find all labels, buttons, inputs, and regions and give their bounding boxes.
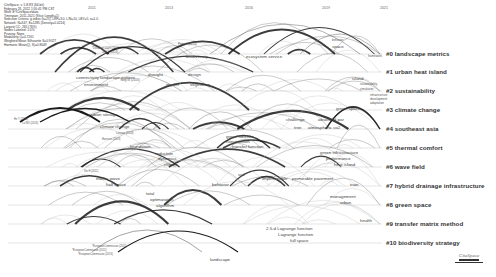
node-label[interactable]: He Y (2016): [14, 118, 28, 121]
node-label[interactable]: performance: [326, 156, 351, 161]
node-label[interactable]: dynamics: [158, 156, 177, 161]
node-label[interactable]: foundation: [130, 144, 151, 149]
node-label[interactable]: permeable pavement: [292, 176, 333, 181]
node-label[interactable]: connectivity: [76, 75, 99, 80]
node-label[interactable]: climate: [164, 162, 178, 167]
node-label[interactable]: Hanssen (2019): [102, 138, 120, 141]
node-label[interactable]: carbon storage: [88, 112, 117, 117]
node-label[interactable]: island: [352, 76, 363, 81]
node-label[interactable]: Jin CY (2016): [102, 51, 118, 54]
node-label[interactable]: design: [188, 72, 201, 77]
node-label[interactable]: half space: [106, 182, 126, 187]
year-tick: 2011: [88, 6, 96, 10]
node-label[interactable]: environment: [84, 82, 108, 87]
logo-text: CiteSpace: [452, 253, 486, 258]
node-label[interactable]: heat island: [334, 162, 355, 167]
year-tick: 2016: [245, 6, 253, 10]
node-label[interactable]: optimization: [150, 197, 173, 202]
cluster-label[interactable]: #3 climate change: [386, 106, 440, 113]
node-label[interactable]: elastic wave: [96, 176, 120, 181]
node-label[interactable]: urban: [340, 200, 351, 205]
cluster-label[interactable]: #10 biodiversity strategy: [386, 239, 460, 246]
node-label[interactable]: framework: [368, 54, 382, 58]
cluster-label[interactable]: #5 thermal comfort: [386, 144, 443, 151]
node-label[interactable]: health: [360, 218, 372, 223]
node-label[interactable]: challenge: [286, 117, 305, 122]
node-label[interactable]: impermeable: [262, 176, 287, 181]
node-label[interactable]: green infrastructure: [320, 150, 358, 155]
node-label[interactable]: atmospheric co2: [308, 125, 340, 130]
node-label[interactable]: *Del Angel 2009 (2016): [92, 47, 119, 50]
cluster-label[interactable]: #2 sustainability: [386, 87, 435, 94]
node-label[interactable]: green space: [336, 106, 360, 111]
node-label[interactable]: space: [332, 44, 344, 49]
node-label[interactable]: adaptation: [370, 101, 384, 105]
node-label[interactable]: climate change: [100, 124, 130, 129]
citespace-logo: CiteSpace: [452, 253, 486, 271]
node-label[interactable]: 2.5-d Lagrange function: [266, 226, 312, 231]
node-label[interactable]: ecosystem service: [246, 54, 282, 59]
node-label[interactable]: vegetation: [190, 82, 210, 87]
node-label[interactable]: impact: [166, 82, 179, 87]
node-label[interactable]: behavior: [212, 182, 229, 187]
node-label[interactable]: *EuropeanCommission (2013): [78, 253, 113, 256]
node-label[interactable]: Lagrange function: [278, 232, 313, 237]
year-tick: 2013: [165, 6, 173, 10]
node-label[interactable]: Peng J (2016): [178, 42, 197, 46]
node-label[interactable]: algorithm: [156, 203, 174, 208]
cluster-label[interactable]: #1 urban heat island: [386, 68, 447, 75]
node-label[interactable]: Larsson (2018): [116, 132, 133, 135]
node-label[interactable]: biodiversity: [186, 54, 208, 59]
node-label[interactable]: sustainability: [360, 82, 377, 86]
year-tick: 2021: [380, 6, 388, 10]
node-label[interactable]: tree: [294, 125, 302, 130]
node-label[interactable]: Xie H (2011): [84, 170, 98, 173]
node-label[interactable]: drought: [148, 72, 163, 77]
cluster-label[interactable]: #6 wave field: [386, 163, 425, 170]
cluster-label[interactable]: #8 green space: [386, 201, 431, 208]
node-label[interactable]: management: [330, 194, 356, 199]
cluster-label[interactable]: #7 hybrid drainage infrastructure: [386, 182, 485, 189]
cluster-label[interactable]: #4 southeast asia: [386, 125, 438, 132]
cluster-label[interactable]: #0 landscape metrics: [386, 50, 450, 57]
summary-line: Harmonic Mean(Q, S)=0.8049: [4, 44, 98, 48]
node-label[interactable]: *EuropeanCommission (2011): [72, 249, 107, 252]
node-label[interactable]: total: [146, 191, 154, 196]
cluster-label[interactable]: #9 transfer matrix method: [386, 220, 463, 227]
node-label[interactable]: landscape: [210, 257, 230, 262]
node-label[interactable]: behavior: [332, 38, 344, 42]
node-label[interactable]: transfer function: [232, 144, 263, 149]
network-summary: CiteSpace, v. 5.8.R3 (64-bit)February 26…: [4, 4, 98, 47]
year-tick: 2019: [322, 6, 330, 10]
node-label[interactable]: Lu WX (2016): [22, 122, 38, 125]
node-label[interactable]: simulation: [360, 87, 374, 91]
node-label[interactable]: soil: [238, 172, 245, 177]
node-label[interactable]: full space: [290, 238, 309, 243]
node-label[interactable]: train: [350, 182, 359, 187]
node-label[interactable]: absorbed par: [318, 117, 344, 122]
node-label[interactable]: Tang W (2016): [120, 78, 140, 82]
node-label[interactable]: *EuropeanCommission (2011): [92, 245, 127, 248]
